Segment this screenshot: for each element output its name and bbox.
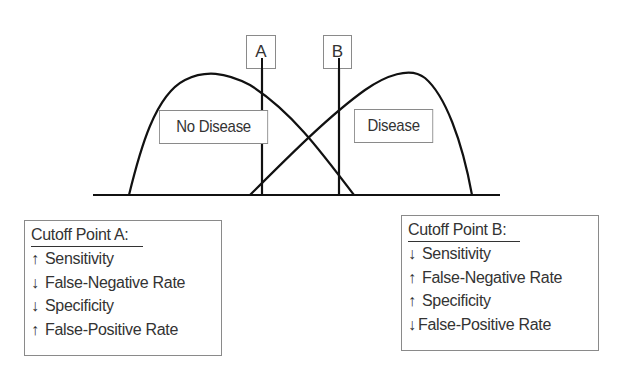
cutoff-b-legend: Cutoff Point B: ↓Sensitivity ↑False-Nega… xyxy=(401,215,599,351)
arrow-down-icon: ↓ xyxy=(408,313,418,337)
arrow-up-icon: ↑ xyxy=(408,289,422,313)
legend-a-title: Cutoff Point A: xyxy=(31,224,143,247)
disease-label: Disease xyxy=(354,109,433,143)
legend-b-item: ↑False-Negative Rate xyxy=(408,266,598,290)
legend-b-item: ↑Specificity xyxy=(408,289,598,313)
disease-text: Disease xyxy=(367,116,419,136)
legend-a-item-text: Sensitivity xyxy=(45,250,114,267)
legend-b-item: ↓Sensitivity xyxy=(408,242,598,266)
legend-b-item-text: Specificity xyxy=(422,292,491,309)
cutoff-a-legend: Cutoff Point A: ↑Sensitivity ↓False-Nega… xyxy=(24,220,222,356)
arrow-down-icon: ↓ xyxy=(31,294,45,318)
arrow-up-icon: ↑ xyxy=(408,266,422,290)
legend-a-item-text: False-Positive Rate xyxy=(45,321,178,338)
arrow-down-icon: ↓ xyxy=(31,271,45,295)
legend-a-item-text: False-Negative Rate xyxy=(45,274,185,291)
legend-a-item: ↑Sensitivity xyxy=(31,247,221,271)
arrow-up-icon: ↑ xyxy=(31,247,45,271)
legend-b-item-text: Sensitivity xyxy=(422,245,491,262)
legend-b-item-text: False-Negative Rate xyxy=(422,269,562,286)
legend-b-title: Cutoff Point B: xyxy=(408,219,520,242)
legend-a-item: ↓False-Negative Rate xyxy=(31,271,221,295)
cutoff-a-stem xyxy=(261,58,263,70)
legend-a-item: ↓Specificity xyxy=(31,294,221,318)
legend-a-item: ↑False-Positive Rate xyxy=(31,318,221,342)
no-disease-text: No Disease xyxy=(176,117,251,137)
arrow-down-icon: ↓ xyxy=(408,242,422,266)
cutoff-b-stem xyxy=(338,58,340,70)
no-disease-label: No Disease xyxy=(159,110,268,144)
legend-b-item-text: False-Positive Rate xyxy=(418,316,551,333)
legend-a-item-text: Specificity xyxy=(45,297,114,314)
arrow-up-icon: ↑ xyxy=(31,318,45,342)
legend-b-item: ↓False-Positive Rate xyxy=(408,313,598,337)
